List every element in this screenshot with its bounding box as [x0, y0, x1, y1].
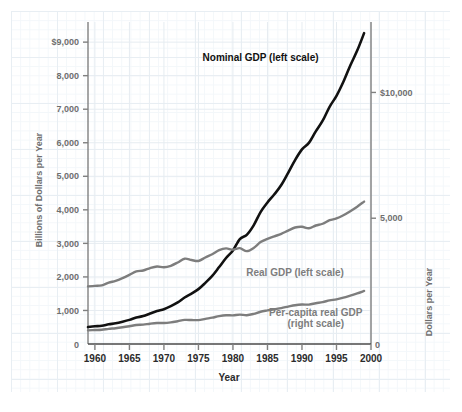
- right-axis-title: Dollars per Year: [424, 267, 434, 336]
- left-axis-tick-label: 8,000: [56, 71, 79, 81]
- bottom-axis-tick-label: 1960: [84, 353, 107, 364]
- left-axis-tick-label: 5,000: [56, 171, 79, 181]
- chart-page: 01,0002,0003,0004,0005,0006,0007,0008,00…: [0, 0, 462, 412]
- bottom-axis-tick-label: 1970: [153, 353, 176, 364]
- bottom-axis-tick-label: 1980: [222, 353, 245, 364]
- bottom-axis-title: Year: [218, 372, 239, 383]
- annotation-label-1: Nominal GDP (left scale): [203, 52, 319, 63]
- left-axis: 01,0002,0003,0004,0005,0006,0007,0008,00…: [51, 22, 88, 350]
- bottom-axis: 196019651970197519801985199019952000: [84, 344, 383, 364]
- bottom-axis-tick-label: 2000: [360, 353, 383, 364]
- bottom-axis-tick-label: 1985: [256, 353, 279, 364]
- bottom-axis-tick-label: 1975: [187, 353, 210, 364]
- bottom-axis-tick-label: 1990: [291, 353, 314, 364]
- left-axis-tick-label: 7,000: [56, 104, 79, 114]
- left-axis-tick-label: 1,000: [56, 306, 79, 316]
- left-axis-tick-label: 3,000: [56, 239, 79, 249]
- right-axis-tick-label: 0: [375, 340, 380, 350]
- bottom-axis-tick-label: 1995: [325, 353, 348, 364]
- left-axis-tick-label: 4,000: [56, 205, 79, 215]
- annotation-label-4: (right scale): [287, 318, 344, 329]
- gdp-line-chart: 01,0002,0003,0004,0005,0006,0007,0008,00…: [0, 0, 462, 412]
- annotation-label-2: Real GDP (left scale): [246, 267, 344, 278]
- annotation-label-3: Per-capita real GDP: [269, 307, 363, 318]
- bottom-axis-tick-label: 1965: [118, 353, 141, 364]
- left-axis-tick-label: 6,000: [56, 138, 79, 148]
- left-axis-title: Billions of Dollars per Year: [34, 132, 44, 247]
- left-axis-tick-label: $9,000: [51, 37, 79, 47]
- right-axis-tick-label: $10,000: [380, 88, 413, 98]
- right-axis: 05,000$10,000: [371, 22, 413, 350]
- left-axis-tick-label: 2,000: [56, 272, 79, 282]
- right-axis-tick-label: 5,000: [380, 213, 403, 223]
- left-axis-tick-label: 0: [74, 340, 79, 350]
- plot-gridlines: [88, 22, 371, 344]
